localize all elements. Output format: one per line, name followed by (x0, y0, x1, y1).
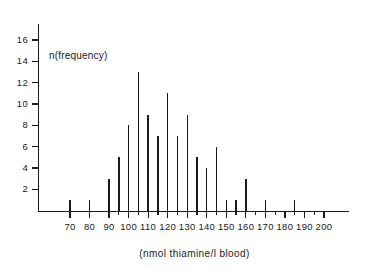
x-axis-minor-tick (177, 211, 178, 215)
x-axis-minor-tick (157, 211, 158, 215)
data-spike (245, 179, 246, 211)
data-spike (128, 125, 129, 210)
data-spike (157, 136, 158, 211)
x-axis-tick-label: 180 (277, 221, 294, 232)
x-axis-tick (108, 211, 109, 218)
y-axis-tick (32, 146, 39, 147)
x-axis-line (38, 211, 349, 212)
data-spike (69, 200, 70, 211)
x-axis-tick-label: 100 (120, 221, 137, 232)
x-axis-minor-tick (118, 211, 119, 215)
y-axis-tick-label: 6 (22, 141, 28, 152)
x-axis-title: (nmol thiamine/l blood) (0, 248, 389, 259)
x-axis-tick (148, 211, 149, 218)
histogram-figure: 246810121416 708090100110120130140150160… (0, 0, 389, 277)
x-axis-tick-label: 170 (257, 221, 274, 232)
x-axis-tick (245, 211, 246, 218)
plot-area: 246810121416 708090100110120130140150160… (0, 0, 389, 277)
x-axis-tick-label: 200 (316, 221, 333, 232)
data-spike (206, 168, 207, 211)
x-axis-tick (187, 211, 188, 218)
data-spike (196, 157, 197, 210)
data-spike (167, 93, 168, 210)
y-axis-tick-label: 10 (17, 98, 28, 109)
data-spike (235, 200, 236, 211)
y-axis-tick-label: 16 (17, 34, 28, 45)
y-axis-line (38, 24, 39, 212)
y-axis-tick (32, 39, 39, 40)
data-spike (216, 147, 217, 211)
x-axis-tick-label: 120 (159, 221, 176, 232)
x-axis-tick (284, 211, 285, 218)
y-axis-tick (32, 61, 39, 62)
data-spike (147, 115, 148, 211)
x-axis-minor-tick (138, 211, 139, 215)
y-axis-tick-label: 12 (17, 77, 28, 88)
x-axis-tick-label: 190 (296, 221, 313, 232)
data-spike (265, 200, 266, 211)
y-axis-tick (32, 82, 39, 83)
x-axis-minor-tick (314, 211, 315, 215)
data-spike (108, 179, 109, 211)
x-axis-tick (323, 211, 324, 218)
y-axis-tick-label: 2 (22, 183, 28, 194)
y-axis-tick (32, 103, 39, 104)
data-spike (118, 157, 119, 210)
x-axis-tick-label: 70 (64, 221, 75, 232)
x-axis-tick-label: 140 (198, 221, 215, 232)
x-axis-tick (304, 211, 305, 218)
x-axis-minor-tick (235, 211, 236, 215)
x-axis-tick-label: 150 (218, 221, 235, 232)
y-axis-tick (32, 167, 39, 168)
data-spike (89, 200, 90, 211)
x-axis-tick-label: 90 (103, 221, 114, 232)
x-axis-tick (69, 211, 70, 218)
x-axis-tick-label: 130 (179, 221, 196, 232)
x-axis-minor-tick (275, 211, 276, 215)
data-spike (177, 136, 178, 211)
data-spike (294, 200, 295, 211)
y-axis-annotation-label: n(frequency) (49, 50, 108, 61)
x-axis-minor-tick (294, 211, 295, 215)
x-axis-tick (128, 211, 129, 218)
x-axis-tick-label: 80 (84, 221, 95, 232)
x-axis-tick (265, 211, 266, 218)
x-axis-tick-label: 110 (140, 221, 156, 232)
x-axis-tick (206, 211, 207, 218)
y-axis-tick-label: 14 (17, 55, 28, 66)
x-axis-tick (226, 211, 227, 218)
y-axis-tick-label: 8 (22, 119, 28, 130)
x-axis-tick-label: 160 (237, 221, 254, 232)
x-axis-tick (167, 211, 168, 218)
x-axis-tick (89, 211, 90, 218)
x-axis-minor-tick (216, 211, 217, 215)
y-axis-tick-label: 4 (22, 162, 28, 173)
x-axis-minor-tick (255, 211, 256, 215)
y-axis-tick (32, 189, 39, 190)
data-spike (226, 200, 227, 211)
data-spike (138, 72, 139, 211)
data-spike (187, 115, 188, 211)
y-axis-tick (32, 125, 39, 126)
x-axis-minor-tick (196, 211, 197, 215)
